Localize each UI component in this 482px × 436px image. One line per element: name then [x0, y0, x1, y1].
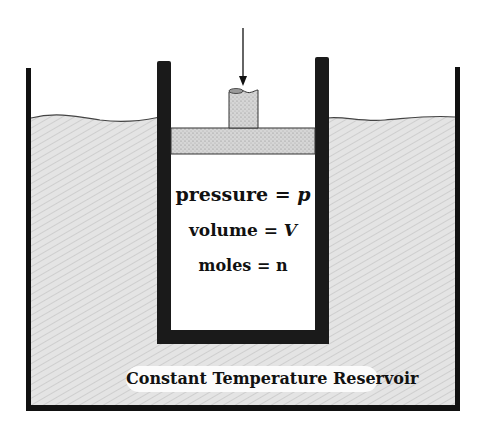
cylinder-bottom — [157, 330, 329, 344]
piston-rod-top — [229, 89, 243, 94]
volume-eq: = — [264, 220, 278, 240]
cylinder-left-wall — [157, 61, 171, 344]
moles-symbol: n — [276, 256, 288, 275]
pressure-label: pressure = p — [171, 183, 315, 205]
reservoir-label: Constant Temperature Reservoir — [126, 366, 378, 392]
pressure-symbol: p — [297, 183, 310, 205]
moles-label: moles = n — [171, 256, 315, 275]
volume-name: volume — [189, 220, 258, 240]
pressure-eq: = — [275, 183, 291, 205]
piston — [171, 128, 315, 154]
piston-rod — [229, 90, 258, 128]
pressure-name: pressure — [175, 183, 268, 205]
gas-region — [171, 154, 315, 330]
cylinder-right-wall — [315, 57, 329, 344]
tank-bottom — [26, 405, 460, 411]
moles-eq: = — [257, 256, 270, 275]
tank-left-wall — [26, 68, 31, 411]
tank-right-wall — [455, 67, 460, 411]
volume-label: volume = V — [171, 220, 315, 240]
moles-name: moles — [198, 256, 251, 275]
force-arrow-head-icon — [239, 76, 247, 86]
volume-symbol: V — [284, 220, 297, 240]
